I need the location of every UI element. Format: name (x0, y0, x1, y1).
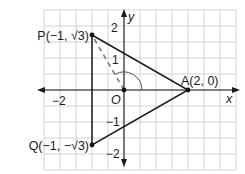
x-axis-label: x (225, 92, 233, 106)
label-point-p: P(−1, √3) (37, 29, 89, 43)
point-p (90, 33, 95, 38)
label-point-a: A(2, 0) (181, 74, 219, 88)
x-axis-arrow-left-icon (37, 87, 45, 93)
tick-y-neg1: −1 (106, 115, 120, 129)
coordinate-diagram: P(−1, √3) Q(−1, −√3) A(2, 0) O x y −2 2 … (0, 0, 245, 174)
y-axis-arrow-down-icon (121, 159, 127, 167)
label-origin: O (111, 93, 121, 107)
point-a (186, 88, 191, 93)
tick-y-2: 2 (111, 21, 118, 35)
tick-y-neg2: −2 (106, 147, 120, 161)
tick-x-neg2: −2 (52, 94, 66, 108)
point-o (122, 88, 127, 93)
tick-y-1: 1 (112, 53, 119, 67)
y-axis-label: y (127, 10, 135, 24)
point-q (90, 143, 95, 148)
label-point-q: Q(−1, −√3) (29, 139, 89, 153)
